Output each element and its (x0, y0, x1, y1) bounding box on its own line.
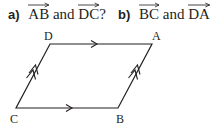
parallelogram (16, 44, 152, 108)
vertex-label-b: B (116, 113, 124, 125)
vertex-label-a: A (152, 30, 161, 42)
vertex-label-d: D (44, 30, 53, 42)
parallelogram-diagram (0, 0, 210, 130)
vertex-label-c: C (10, 113, 18, 125)
